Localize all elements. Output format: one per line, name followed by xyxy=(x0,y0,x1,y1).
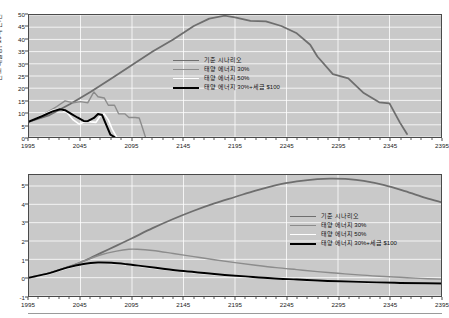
y-tick-mark xyxy=(25,14,28,15)
x-tick-mark xyxy=(359,138,360,140)
x-tick-mark xyxy=(307,297,308,299)
y-tick-label: 45 xyxy=(18,23,25,30)
x-tick-mark xyxy=(90,297,91,299)
x-tick-label: 2195 xyxy=(228,142,242,149)
x-tick-mark xyxy=(152,297,153,299)
x-tick-mark xyxy=(410,297,411,299)
x-tick-mark xyxy=(172,297,173,299)
x-tick-mark xyxy=(338,138,339,141)
y-tick-mark xyxy=(25,51,28,52)
x-tick-mark xyxy=(48,297,49,299)
x-tick-label: 2045 xyxy=(73,301,87,308)
x-tick-mark xyxy=(286,297,287,300)
y-tick-mark xyxy=(25,100,28,101)
x-tick-mark xyxy=(131,297,132,300)
legend-item: 태양 에너지 30% xyxy=(290,221,397,230)
legend-item-label: 태양 에너지 30%+세금 $100 xyxy=(204,83,280,92)
x-tick-mark xyxy=(348,297,349,299)
x-tick-mark xyxy=(297,297,298,299)
x-tick-label: 2245 xyxy=(280,301,294,308)
x-tick-label: 1995 xyxy=(21,142,35,149)
legend-top: 기준 시나리오태양 에너지 30%태양 에너지 50%태양 에너지 30%+세금… xyxy=(173,56,280,92)
x-tick-mark xyxy=(69,138,70,140)
x-tick-label: 2145 xyxy=(176,142,190,149)
x-tick-mark xyxy=(162,297,163,299)
legend-item-label: 태양 에너지 50% xyxy=(321,230,366,239)
y-tick-mark xyxy=(25,125,28,126)
legend-swatch-line-icon xyxy=(290,216,316,217)
x-tick-mark xyxy=(110,297,111,299)
legend-swatch-line-icon xyxy=(290,243,316,245)
legend-item: 태양 에너지 30% xyxy=(173,65,280,74)
x-tick-mark xyxy=(90,138,91,140)
x-tick-mark xyxy=(328,138,329,140)
x-tick-mark xyxy=(421,297,422,299)
x-tick-mark xyxy=(162,138,163,140)
legend-bottom: 기준 시나리오태양 에너지 30%태양 에너지 50%태양 에너지 30%+세금… xyxy=(290,212,397,248)
x-tick-mark xyxy=(100,297,101,299)
x-tick-mark xyxy=(172,138,173,140)
legend-item: 태양 에너지 30%+세금 $100 xyxy=(173,83,280,92)
x-tick-mark xyxy=(442,297,443,300)
x-tick-mark xyxy=(121,138,122,140)
legend-item-label: 태양 에너지 50% xyxy=(204,74,249,83)
x-tick-mark xyxy=(390,138,391,141)
x-tick-mark xyxy=(431,297,432,299)
x-tick-mark xyxy=(379,297,380,299)
x-tick-mark xyxy=(79,297,80,300)
x-tick-mark xyxy=(235,138,236,141)
chart-temperature-change: 기온 변화, ℃ -101234519952045209521452195224… xyxy=(0,160,446,318)
x-tick-mark xyxy=(69,297,70,299)
x-tick-mark xyxy=(400,138,401,140)
x-tick-mark xyxy=(266,138,267,140)
x-tick-mark xyxy=(141,297,142,299)
chart-carbon-emissions: 탄소 배출량, 10억 톤/년 051015202530354045501995… xyxy=(0,0,446,160)
x-tick-label: 1995 xyxy=(21,301,35,308)
y-tick-label: 20 xyxy=(18,85,25,92)
y-tick-label: 30 xyxy=(18,60,25,67)
x-tick-mark xyxy=(224,138,225,140)
footer-divider xyxy=(28,313,442,314)
y-tick-mark xyxy=(25,63,28,64)
legend-swatch-line-icon xyxy=(290,234,316,235)
x-tick-label: 2295 xyxy=(332,142,346,149)
x-tick-mark xyxy=(390,297,391,300)
legend-item-label: 태양 에너지 30% xyxy=(204,65,249,74)
x-tick-mark xyxy=(297,138,298,140)
y-tick-mark xyxy=(25,26,28,27)
x-tick-mark xyxy=(421,138,422,140)
x-tick-mark xyxy=(59,297,60,299)
legend-swatch-line-icon xyxy=(290,225,316,226)
y-tick-mark xyxy=(25,38,28,39)
x-tick-mark xyxy=(214,138,215,140)
x-tick-label: 2245 xyxy=(280,142,294,149)
x-tick-mark xyxy=(38,297,39,299)
y-axis-label-top: 탄소 배출량, 10억 톤/년 xyxy=(0,13,3,80)
x-tick-mark xyxy=(59,138,60,140)
x-tick-mark xyxy=(100,138,101,140)
x-tick-label: 2395 xyxy=(435,142,449,149)
y-tick-mark xyxy=(25,185,28,186)
x-tick-mark xyxy=(245,138,246,140)
x-tick-mark xyxy=(286,138,287,141)
x-tick-mark xyxy=(410,138,411,140)
x-tick-mark xyxy=(110,138,111,140)
legend-item: 기준 시나리오 xyxy=(290,212,397,221)
x-tick-mark xyxy=(28,297,29,300)
x-tick-mark xyxy=(193,138,194,140)
x-tick-mark xyxy=(379,138,380,140)
y-tick-label: 15 xyxy=(18,97,25,104)
x-tick-mark xyxy=(121,297,122,299)
x-tick-mark xyxy=(276,297,277,299)
plot-area-bottom: -101234519952045209521452195224522952345… xyxy=(28,174,442,297)
x-tick-label: 2345 xyxy=(383,301,397,308)
x-tick-mark xyxy=(328,297,329,299)
x-tick-mark xyxy=(183,297,184,300)
x-tick-label: 2095 xyxy=(125,301,139,308)
x-tick-label: 2195 xyxy=(228,301,242,308)
legend-item-label: 태양 에너지 30%+세금 $100 xyxy=(321,239,397,248)
x-tick-mark xyxy=(400,297,401,299)
x-tick-mark xyxy=(317,297,318,299)
x-tick-mark xyxy=(359,297,360,299)
